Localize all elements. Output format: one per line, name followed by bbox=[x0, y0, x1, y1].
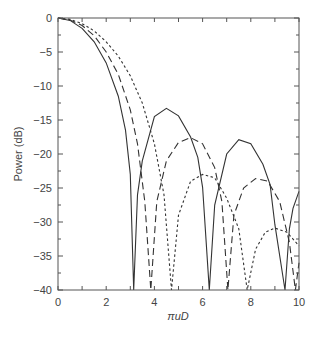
x-axis-label: πuD bbox=[167, 310, 188, 322]
x-axis: 0246810 bbox=[55, 18, 305, 308]
series-dashed-line bbox=[58, 18, 299, 290]
y-tick-label: 0 bbox=[46, 12, 52, 24]
x-tick-label: 6 bbox=[200, 296, 206, 308]
y-tick-label: −30 bbox=[33, 216, 52, 228]
x-tick-label: 4 bbox=[151, 296, 157, 308]
series-dotted-line bbox=[58, 18, 299, 290]
x-tick-label: 2 bbox=[103, 296, 109, 308]
plot-area bbox=[58, 18, 299, 290]
power-pattern-chart: 0−5−10−15−20−25−30−35−40 0246810 πuD Pow… bbox=[0, 0, 320, 337]
x-tick-label: 0 bbox=[55, 296, 61, 308]
y-tick-label: −10 bbox=[33, 80, 52, 92]
y-axis-label: Power (dB) bbox=[12, 126, 24, 181]
plot-frame bbox=[58, 18, 299, 290]
y-tick-label: −35 bbox=[33, 250, 52, 262]
y-tick-label: −15 bbox=[33, 114, 52, 126]
y-tick-label: −25 bbox=[33, 182, 52, 194]
series-solid-line bbox=[58, 18, 299, 290]
x-tick-label: 8 bbox=[248, 296, 254, 308]
y-axis: 0−5−10−15−20−25−30−35−40 bbox=[33, 12, 299, 296]
y-tick-label: −5 bbox=[39, 46, 52, 58]
y-tick-label: −20 bbox=[33, 148, 52, 160]
y-tick-label: −40 bbox=[33, 284, 52, 296]
x-tick-label: 10 bbox=[293, 296, 305, 308]
